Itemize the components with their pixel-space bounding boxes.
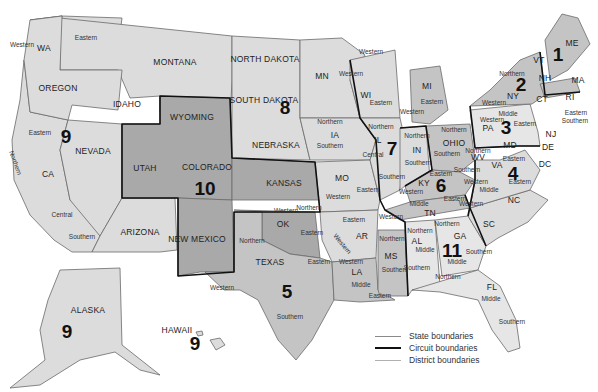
state-label: MD [503,141,517,150]
district-label: Central [52,212,73,219]
state-label: FL [487,283,497,292]
circuit-number: 11 [442,241,462,260]
district-label: Middle [481,296,500,303]
district-label: Northern [379,236,404,243]
district-label: Eastern [308,259,330,266]
district-label: Western [274,208,298,215]
state-label: LA [352,268,363,277]
hawaii-shape [196,331,225,350]
state-label: HAWAII [162,326,193,335]
state-label: ALASKA [71,306,105,315]
state-label: TEXAS [256,258,285,267]
state-label: DC [539,160,552,169]
district-label: Northern [296,205,321,212]
state-label: RI [566,93,575,102]
district-label: Northern [441,127,466,134]
district-label: Eastern [357,187,379,194]
state-label: OREGON [39,84,78,93]
district-label: Western [379,214,403,221]
district-label: Eastern [370,100,392,107]
state-label: IL [374,136,382,145]
district-label: Eastern [75,35,97,42]
district-label: Middle [415,247,434,254]
district-label: Northern [404,133,429,140]
circuit-number: 8 [280,98,291,117]
legend-label: State boundaries [409,331,473,341]
district-label: Middle [409,201,428,208]
circuit-number: 9 [62,322,73,341]
district-label: Eastern [29,130,51,137]
district-label: Western [339,71,363,78]
district-label: Northern [407,228,432,235]
district-label: Southern [454,167,480,174]
state-boundary-swatch [375,336,401,337]
legend-item-state: State boundaries [375,330,479,342]
state-label: DE [542,143,554,152]
state-label: TN [424,209,436,218]
state-label: VT [533,56,544,65]
state-label: IN [413,146,422,155]
district-label: Western [10,42,34,49]
state-label: NORTH DAKOTA [230,55,299,64]
state-label: IA [331,131,339,140]
legend-label: Circuit boundaries [409,343,478,353]
state-label: KY [418,179,430,188]
district-label: Southern [379,174,405,181]
district-label: Eastern [514,121,536,128]
district-label: Central [363,152,384,159]
state-label: OHIO [443,139,466,148]
circuit-boundary-swatch [375,347,401,349]
state-label: CA [42,170,54,179]
state-label: ARIZONA [120,228,159,237]
state-label: NC [508,196,521,205]
circuit-number: 9 [190,334,201,353]
district-label: Southern [466,249,492,256]
state-label: SC [483,220,495,229]
state-label: NEVADA [75,147,111,156]
state-label: KANSAS [266,179,302,188]
state-label: MA [571,76,584,85]
legend-item-district: District boundaries [375,354,479,366]
district-label: Western [339,259,363,266]
circuit-number: 9 [61,127,72,146]
district-label: Southern [562,118,588,125]
state-label: NEW MEXICO [168,235,226,244]
district-label: Eastern [503,156,525,163]
district-label: Western [464,179,488,186]
district-label: Southern [277,314,303,321]
state-label: UTAH [133,164,156,173]
district-label: Western [399,189,423,196]
district-label: Southern [404,265,430,272]
district-label: Eastern [369,293,391,300]
circuit-number: 5 [282,282,293,301]
circuit-number: 4 [508,164,519,183]
district-label: Eastern [301,230,323,237]
circuit-number: 2 [516,75,527,94]
state-label: AR [356,232,368,241]
district-label: Middle [479,187,498,194]
district-label: Eastern [421,99,443,106]
legend: State boundaries Circuit boundaries Dist… [375,330,479,366]
circuit-number: 7 [387,139,398,158]
state-label: IDAHO [113,100,141,109]
district-label: Northern [435,274,460,281]
state-label: WA [37,44,51,53]
state-label: NH [539,74,552,83]
district-label: Northern [368,124,393,131]
district-label: Southern [434,151,460,158]
district-label: Northern [434,221,459,228]
circuit-number: 6 [436,176,447,195]
region-6th-circuit [410,66,448,124]
legend-item-circuit: Circuit boundaries [375,342,479,354]
state-label: VA [491,161,502,170]
district-label: Southern [405,160,431,167]
district-label: Southern [317,143,343,150]
state-label: OK [277,220,290,229]
alaska-shape [10,268,160,388]
district-label: Middle [351,282,370,289]
district-label: Western [326,194,350,201]
district-label: Southern [69,234,95,241]
district-boundary-swatch [375,360,401,361]
district-label: Northern [317,119,342,126]
state-label: AL [412,237,423,246]
